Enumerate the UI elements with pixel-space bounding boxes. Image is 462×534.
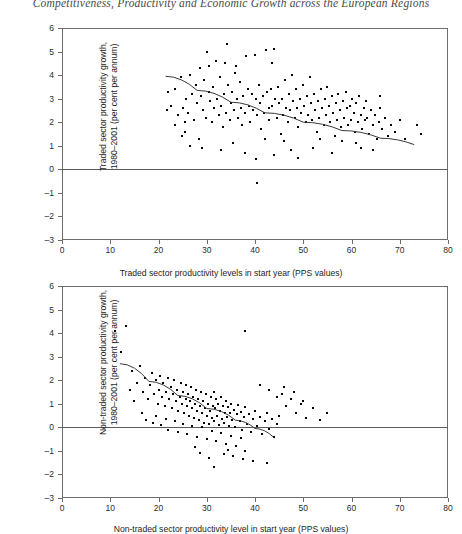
y-axis-tick-label: –1 — [38, 189, 54, 197]
fitted-regression-curve — [62, 28, 448, 240]
y-axis-tick-label: –2 — [38, 212, 54, 220]
x-axis-tick-label: 70 — [390, 246, 410, 254]
y-axis-tick-label: 6 — [38, 24, 54, 32]
y-axis-tick-label: 2 — [38, 376, 54, 384]
y-axis-tick-label: 6 — [38, 282, 54, 290]
x-axis-tick-label: 0 — [52, 504, 72, 512]
x-axis-tick-label: 80 — [438, 246, 458, 254]
x-axis-tick — [159, 498, 160, 502]
x-axis-tick — [448, 240, 449, 244]
x-axis-tick — [303, 498, 304, 502]
x-axis-tick — [255, 240, 256, 244]
y-axis-tick-label: 0 — [38, 165, 54, 173]
x-axis-tick-label: 40 — [245, 504, 265, 512]
x-axis-tick — [62, 498, 63, 502]
x-axis-tick — [255, 498, 256, 502]
y-axis-tick-label: 1 — [38, 400, 54, 408]
plot-area-nontraded: 6543210–1–2–301020304050607080 — [62, 286, 448, 498]
x-axis-tick-label: 60 — [342, 504, 362, 512]
x-axis-tick-label: 20 — [149, 504, 169, 512]
x-axis-tick — [448, 498, 449, 502]
y-axis-tick-label: 4 — [38, 329, 54, 337]
y-axis-tick-label: –3 — [38, 494, 54, 502]
x-axis-tick-label: 30 — [197, 504, 217, 512]
x-axis-tick-label: 80 — [438, 504, 458, 512]
y-axis-tick-label: 2 — [38, 118, 54, 126]
x-axis-tick — [400, 498, 401, 502]
x-axis-tick — [159, 240, 160, 244]
x-axis-tick-label: 10 — [100, 246, 120, 254]
x-axis-tick — [352, 498, 353, 502]
y-axis-tick-label: 4 — [38, 71, 54, 79]
x-axis-tick-label: 70 — [390, 504, 410, 512]
x-axis-tick-label: 50 — [293, 246, 313, 254]
y-axis-tick-label: –2 — [38, 470, 54, 478]
plot-area-traded: 6543210–1–2–301020304050607080 — [62, 28, 448, 240]
y-axis-tick-label: –1 — [38, 447, 54, 455]
x-axis-tick — [62, 240, 63, 244]
y-axis-title-nontraded: Non-traded sector productivity growth, 1… — [98, 257, 119, 469]
x-axis-tick-label: 50 — [293, 504, 313, 512]
x-axis-tick-label: 40 — [245, 246, 265, 254]
x-axis-tick-label: 30 — [197, 246, 217, 254]
x-axis-title-traded: Traded sector productivity levels in sta… — [0, 268, 462, 278]
y-axis-tick-label: 3 — [38, 353, 54, 361]
x-axis-tick-label: 10 — [100, 504, 120, 512]
fitted-regression-curve — [62, 286, 448, 498]
figure-nontraded-sector: 6543210–1–2–301020304050607080 Non-trade… — [0, 278, 462, 515]
x-axis-tick-label: 60 — [342, 246, 362, 254]
x-axis-tick-label: 20 — [149, 246, 169, 254]
y-axis-tick-label: 0 — [38, 423, 54, 431]
x-axis-tick — [400, 240, 401, 244]
x-axis-tick-label: 0 — [52, 246, 72, 254]
y-axis-tick-label: 5 — [38, 48, 54, 56]
x-axis-tick — [352, 240, 353, 244]
x-axis-tick — [110, 498, 111, 502]
x-axis-tick — [110, 240, 111, 244]
x-axis-tick — [207, 498, 208, 502]
x-axis-tick — [207, 240, 208, 244]
y-axis-tick-label: 5 — [38, 306, 54, 314]
figure-traded-sector: 6543210–1–2–301020304050607080 Traded se… — [0, 18, 462, 270]
x-axis-tick — [303, 240, 304, 244]
y-axis-tick-label: –3 — [38, 236, 54, 244]
y-axis-tick-label: 1 — [38, 142, 54, 150]
y-axis-tick-label: 3 — [38, 95, 54, 103]
running-head: Competitiveness, Productivity and Econom… — [0, 0, 462, 10]
y-axis-title-traded: Traded sector productivity growth, 1980–… — [98, 1, 119, 213]
x-axis-title-nontraded: Non-traded sector productivity level in … — [0, 524, 462, 534]
